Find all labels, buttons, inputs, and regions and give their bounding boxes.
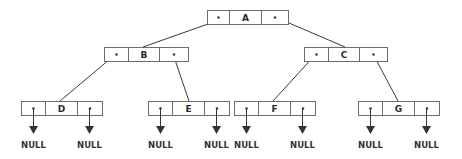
- node-label: D: [58, 104, 65, 114]
- node-b: B: [105, 48, 189, 62]
- node-label: C: [341, 50, 348, 60]
- node-label: B: [141, 50, 148, 60]
- arrow-down-icon: [212, 126, 221, 134]
- left-pointer-icon: [115, 53, 118, 56]
- null-label: NULL: [414, 140, 439, 150]
- arrow-down-icon: [29, 126, 38, 134]
- right-pointer-icon: [372, 53, 375, 56]
- null-label: NULL: [204, 140, 229, 150]
- null-label: NULL: [148, 140, 173, 150]
- node-label: A: [242, 13, 249, 23]
- right-pointer-icon: [173, 53, 176, 56]
- left-pointer-icon: [315, 53, 318, 56]
- arrow-down-icon: [156, 126, 165, 134]
- node-c: C: [305, 48, 388, 62]
- arrow-down-icon: [85, 126, 94, 134]
- arrow-down-icon: [422, 126, 431, 134]
- arrow-down-icon: [242, 126, 251, 134]
- edge-a-b: [143, 24, 208, 47]
- null-label: NULL: [358, 140, 383, 150]
- node-label: G: [395, 104, 402, 114]
- binary-tree-diagram: ABCDEFG NULLNULLNULLNULLNULLNULLNULLNULL: [0, 0, 462, 159]
- arrow-down-icon: [298, 126, 307, 134]
- node-label: E: [185, 104, 191, 114]
- node-a: A: [208, 11, 289, 25]
- left-pointer-icon: [217, 16, 220, 19]
- null-label: NULL: [77, 140, 102, 150]
- node-label: F: [271, 104, 277, 114]
- arrow-down-icon: [366, 126, 375, 134]
- null-label: NULL: [21, 140, 46, 150]
- right-pointer-icon: [274, 16, 277, 19]
- tree-nodes: ABCDEFG: [22, 11, 440, 116]
- null-label: NULL: [290, 140, 315, 150]
- null-label: NULL: [234, 140, 259, 150]
